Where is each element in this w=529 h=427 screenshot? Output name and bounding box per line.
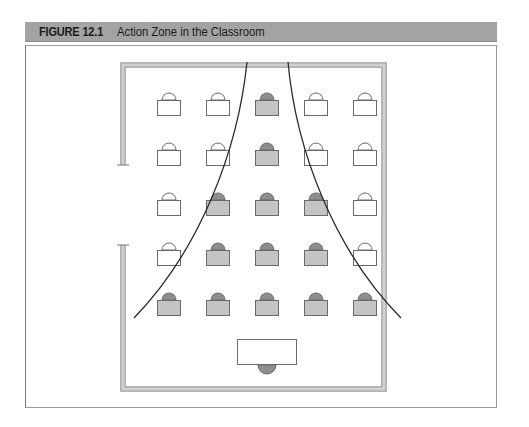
student-chair-icon	[260, 143, 274, 150]
student-desk	[207, 143, 230, 166]
student-chair-icon	[358, 243, 372, 250]
student-desk	[256, 243, 279, 266]
student-desk-rect	[158, 201, 181, 216]
classroom-diagram	[0, 0, 529, 427]
student-chair-icon	[162, 243, 176, 250]
student-chair-icon	[260, 243, 274, 250]
student-desk-rect	[256, 201, 279, 216]
student-desk	[207, 93, 230, 116]
student-desk-rect	[256, 301, 279, 316]
student-desk	[305, 293, 328, 316]
student-desk	[354, 93, 377, 116]
student-chair-icon	[211, 293, 225, 300]
student-desk	[207, 293, 230, 316]
student-desk	[354, 293, 377, 316]
student-desk-rect	[256, 101, 279, 116]
student-desk	[305, 93, 328, 116]
student-desk-rect	[305, 101, 328, 116]
student-desk-rect	[158, 151, 181, 166]
student-chair-icon	[162, 293, 176, 300]
student-desk	[305, 243, 328, 266]
student-desk	[354, 193, 377, 216]
student-desk	[305, 143, 328, 166]
student-desk	[305, 193, 328, 216]
student-desk-rect	[207, 251, 230, 266]
student-chair-icon	[309, 143, 323, 150]
student-desk	[256, 143, 279, 166]
student-chair-icon	[358, 93, 372, 100]
student-desk-rect	[207, 101, 230, 116]
student-chair-icon	[162, 93, 176, 100]
student-desk-rect	[207, 301, 230, 316]
student-desk	[158, 93, 181, 116]
student-desk-rect	[354, 301, 377, 316]
student-desk	[207, 243, 230, 266]
student-chair-icon	[162, 143, 176, 150]
student-desk-rect	[354, 101, 377, 116]
student-desk-rect	[158, 101, 181, 116]
student-desk	[158, 143, 181, 166]
action-zone-left-boundary	[134, 62, 247, 318]
student-desk	[207, 193, 230, 216]
student-desk	[158, 193, 181, 216]
student-desk	[158, 243, 181, 266]
student-desk-rect	[354, 151, 377, 166]
student-chair-icon	[260, 293, 274, 300]
student-chair-icon	[358, 293, 372, 300]
student-chair-icon	[358, 143, 372, 150]
student-desk	[256, 93, 279, 116]
student-desk-rect	[158, 301, 181, 316]
student-chair-icon	[358, 193, 372, 200]
student-chair-icon	[211, 93, 225, 100]
student-desk	[158, 293, 181, 316]
student-desk-rect	[305, 301, 328, 316]
student-chair-icon	[162, 193, 176, 200]
student-desk-rect	[305, 251, 328, 266]
student-desk	[354, 143, 377, 166]
teacher-desk	[238, 340, 297, 375]
student-desks	[158, 93, 377, 316]
student-chair-icon	[309, 243, 323, 250]
student-desk-rect	[256, 251, 279, 266]
teacher-chair-icon	[258, 365, 276, 374]
student-chair-icon	[211, 243, 225, 250]
student-desk	[256, 293, 279, 316]
student-desk-rect	[256, 151, 279, 166]
teacher-desk-rect	[238, 340, 297, 365]
student-chair-icon	[260, 193, 274, 200]
student-chair-icon	[211, 143, 225, 150]
student-desk	[256, 193, 279, 216]
student-chair-icon	[309, 93, 323, 100]
student-desk-rect	[354, 201, 377, 216]
student-chair-icon	[260, 93, 274, 100]
student-chair-icon	[309, 293, 323, 300]
